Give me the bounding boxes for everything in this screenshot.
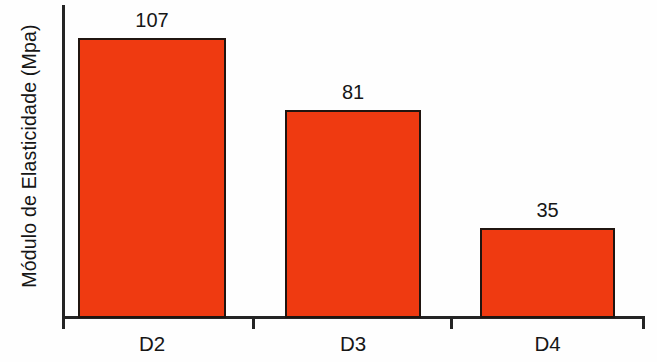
x-axis-label-d2: D2 (78, 332, 226, 356)
x-axis-label-d3: D3 (285, 332, 421, 356)
bar-chart-figure: Módulo de Elasticidade (Mpa) 107 D2 81 D… (0, 0, 657, 362)
plot-area: 107 D2 81 D3 35 D4 (62, 5, 645, 318)
y-axis-line (62, 5, 65, 318)
x-axis-tick (642, 318, 645, 329)
x-axis-tick (62, 318, 65, 329)
bar-value-d3: 81 (285, 81, 421, 104)
bar-value-d2: 107 (78, 9, 226, 32)
x-axis-label-d4: D4 (480, 332, 615, 356)
x-axis-tick (252, 318, 255, 329)
bar-d4 (480, 228, 615, 318)
bar-value-d4: 35 (480, 199, 615, 222)
y-axis-title: Módulo de Elasticidade (Mpa) (12, 1, 46, 311)
bar-d3 (285, 110, 421, 318)
x-axis-tick (450, 318, 453, 329)
bar-d2 (78, 38, 226, 318)
